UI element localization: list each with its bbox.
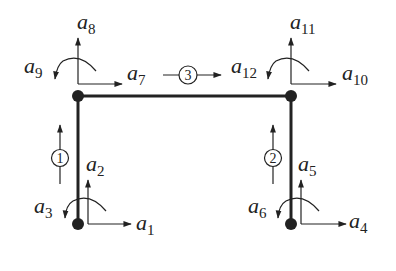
label-a5: a5 <box>298 151 317 179</box>
dof-group-node-top-left <box>55 38 122 84</box>
label-a7: a7 <box>127 60 146 88</box>
member-1-indicator: 1 <box>52 125 69 184</box>
label-a12: a12 <box>231 53 257 81</box>
member-2-number: 2 <box>270 151 277 166</box>
dof-a3-rotation-arrow-icon <box>65 198 106 218</box>
dof-group-node-bottom-left <box>65 180 131 224</box>
member-1-number: 1 <box>57 151 64 166</box>
label-a11: a11 <box>290 9 315 37</box>
label-a2: a2 <box>86 151 105 179</box>
label-a8: a8 <box>77 9 96 37</box>
member-3-number: 3 <box>185 68 192 83</box>
dof-labels: a1 a2 a3 a4 a5 a6 a7 a8 a9 a10 a11 a12 <box>24 9 368 238</box>
node-top-right <box>285 90 297 102</box>
node-top-left <box>72 90 84 102</box>
dof-group-node-top-right <box>268 38 336 84</box>
dof-a12-rotation-arrow-icon <box>268 58 309 79</box>
node-bottom-left <box>72 218 84 230</box>
member-3-indicator: 3 <box>163 66 221 84</box>
dof-a9-rotation-arrow-icon <box>55 58 96 79</box>
label-a10: a10 <box>342 60 368 88</box>
label-a9: a9 <box>24 53 43 81</box>
dof-a6-rotation-arrow-icon <box>278 198 319 218</box>
label-a4: a4 <box>349 208 368 236</box>
dof-group-node-bottom-right <box>278 180 346 224</box>
node-bottom-right <box>285 218 297 230</box>
frame-diagram: 1 2 3 a1 a2 a3 a4 a5 a6 <box>0 0 396 271</box>
label-a3: a3 <box>34 193 53 221</box>
member-2-indicator: 2 <box>265 125 282 184</box>
label-a6: a6 <box>248 193 267 221</box>
label-a1: a1 <box>136 210 155 238</box>
